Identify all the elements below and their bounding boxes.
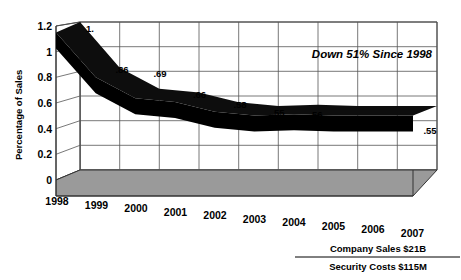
x-tick-1999: 1999 — [85, 199, 109, 211]
data-label-2004: .56 — [309, 109, 322, 120]
data-label-2001: .66 — [193, 89, 206, 100]
plot-floor — [56, 170, 437, 196]
y-tick-0-6: 0.6 — [37, 97, 52, 109]
y-axis-title-text: Percentage of Sales — [13, 70, 24, 160]
y-tick-1-2: 1.2 — [37, 20, 52, 32]
y-tick-1: 1 — [46, 46, 52, 58]
y-tick-labels: 1.2 1 0.8 0.6 0.4 0.2 0 — [37, 20, 52, 186]
y-tick-0: 0 — [46, 174, 52, 186]
x-tick-2007: 2007 — [401, 227, 425, 239]
footnote-fraction: Company Sales $21B Security Costs $115M — [295, 243, 460, 272]
data-label-1999: .86 — [115, 64, 128, 75]
x-tick-2001: 2001 — [164, 206, 188, 218]
x-tick-2005: 2005 — [322, 220, 346, 232]
y-tick-0-2: 0.2 — [37, 148, 52, 160]
x-tick-2003: 2003 — [243, 213, 267, 225]
security-cost-chart: 1.2 1 0.8 0.6 0.4 0.2 0 Percentage of Sa… — [0, 0, 461, 280]
footnote-denominator: Security Costs $115M — [329, 261, 427, 272]
x-tick-2004: 2004 — [282, 216, 306, 228]
x-tick-2000: 2000 — [124, 202, 148, 214]
data-label-2006: .55 — [389, 120, 403, 131]
data-label-2007: .55 — [423, 125, 437, 136]
footnote-numerator: Company Sales $21B — [330, 243, 426, 254]
data-label-1998: 1. — [86, 23, 94, 34]
data-label-2000: .69 — [153, 68, 166, 79]
x-tick-2006: 2006 — [361, 223, 385, 235]
chart-svg: 1.2 1 0.8 0.6 0.4 0.2 0 Percentage of Sa… — [0, 0, 461, 280]
y-tick-0-4: 0.4 — [37, 123, 52, 135]
annotation-text: Down 51% Since 1998 — [312, 48, 433, 60]
data-label-2003: .55 — [271, 107, 285, 118]
x-tick-labels: 1998 1999 2000 2001 2002 2003 2004 2005 … — [45, 195, 424, 239]
data-label-2002: .58 — [233, 99, 246, 110]
annotation-callout: Down 51% Since 1998 — [312, 48, 433, 60]
x-tick-2002: 2002 — [203, 209, 227, 221]
y-axis-title: Percentage of Sales — [13, 70, 24, 160]
y-tick-0-8: 0.8 — [37, 71, 52, 83]
x-tick-1998: 1998 — [45, 195, 69, 207]
data-label-2005: .55 — [349, 118, 363, 129]
